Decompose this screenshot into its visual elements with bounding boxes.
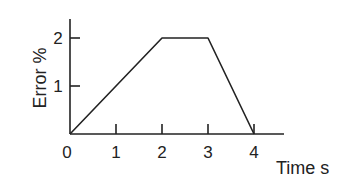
x-tick-label: 3 — [203, 143, 212, 162]
error-series-line — [70, 38, 254, 134]
y-tick-label: 2 — [53, 29, 62, 48]
chart: 01234 12 Error % Time s — [0, 0, 354, 183]
x-tick-label: 1 — [111, 143, 120, 162]
x-tick-label: 4 — [249, 143, 258, 162]
y-tick-label: 1 — [53, 77, 62, 96]
x-ticks: 01234 — [62, 124, 258, 162]
y-ticks: 12 — [53, 29, 80, 96]
x-axis-title: Time s — [276, 158, 329, 178]
y-axis-title: Error % — [30, 47, 50, 108]
x-tick-label: 2 — [157, 143, 166, 162]
x-tick-label: 0 — [62, 143, 71, 162]
